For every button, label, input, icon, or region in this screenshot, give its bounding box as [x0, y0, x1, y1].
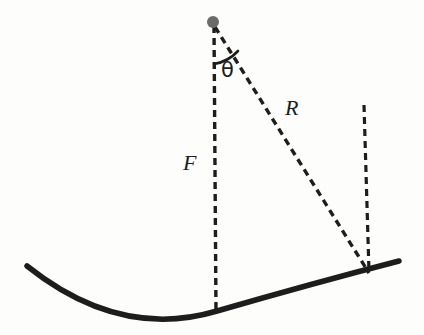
ray-length-label: R: [285, 97, 298, 119]
radius-ray-dashed-line: [215, 27, 369, 273]
diagram-vector-layer: [0, 0, 424, 335]
rim-vertical-dashed-line: [364, 105, 369, 272]
focus-point-dot: [207, 16, 219, 28]
angle-label: θ: [221, 60, 234, 81]
parabolic-reflector-curve: [27, 261, 399, 319]
diagram-canvas: F R θ: [0, 0, 424, 335]
focal-axis-dashed-line: [214, 26, 216, 312]
focal-length-label: F: [183, 152, 196, 174]
